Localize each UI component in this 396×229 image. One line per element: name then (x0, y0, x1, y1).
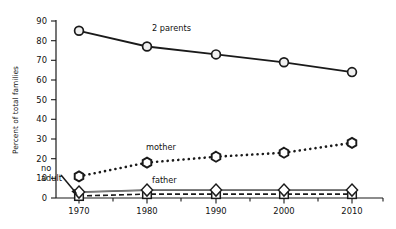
y-tick-label: 30 (36, 134, 47, 144)
y-tick-label: 40 (36, 114, 47, 124)
x-tick-label: 1980 (136, 206, 157, 216)
chart-container: 0 10 20 30 40 50 60 70 80 90 Percent of … (0, 0, 396, 229)
y-tick-label: 0 (42, 193, 47, 203)
annotation-father: father (152, 175, 177, 185)
x-tick-label: 1990 (205, 206, 226, 216)
x-tick-label: 1970 (68, 206, 89, 216)
annotation-mother: mother (146, 142, 176, 152)
y-tick-label: 90 (36, 16, 47, 26)
y-tick-label: 70 (36, 55, 47, 65)
y-tick-label: 50 (36, 95, 47, 105)
line-chart: 0 10 20 30 40 50 60 70 80 90 Percent of … (0, 0, 396, 229)
annotation-two-parents: 2 parents (152, 23, 191, 33)
y-tick-label: 60 (36, 75, 47, 85)
y-axis-title: Percent of total families (11, 66, 20, 154)
x-tick-label: 2000 (273, 206, 294, 216)
x-tick-label: 2010 (341, 206, 362, 216)
y-tick-label: 80 (36, 36, 47, 46)
